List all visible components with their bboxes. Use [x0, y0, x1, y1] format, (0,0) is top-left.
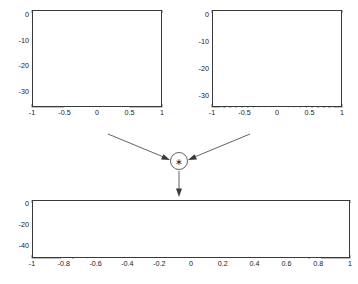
x-tick-label: -0.5 [238, 109, 250, 116]
y-tick-label: -10 [0, 37, 29, 44]
x-tick-label: -0.2 [153, 260, 165, 267]
x-tick-label: -0.4 [121, 260, 133, 267]
x-tick-label: 1 [348, 260, 352, 267]
x-tick-label: 0.2 [218, 260, 228, 267]
x-tick-label: -1 [29, 260, 35, 267]
x-tick-label: 0 [95, 109, 99, 116]
x-tick-label: 1 [160, 109, 164, 116]
chart-dirichlet-kernel: -1-0.500.510-10-20-30 [180, 0, 358, 128]
y-tick-label: -30 [0, 88, 29, 95]
arrow-from-kernel-to-operator [188, 134, 250, 160]
x-tick-label: 0.5 [305, 109, 315, 116]
y-tick-label: 0 [0, 11, 29, 18]
figure-canvas: -1-0.500.510-10-20-30 -1-0.500.510-10-20… [0, 0, 358, 284]
x-tick-label: -0.5 [58, 109, 70, 116]
x-tick-label: -1 [209, 109, 215, 116]
y-tick-label: -20 [0, 63, 29, 70]
chart-windowed-filter-response: -1-0.8-0.6-0.4-0.200.20.40.60.810-20-40 [0, 196, 358, 284]
x-tick-label: -1 [29, 109, 35, 116]
x-tick-label: 1 [340, 109, 344, 116]
y-tick-label: 0 [180, 12, 209, 19]
operator-connector: ∗ [0, 120, 358, 200]
y-tick-label: -20 [0, 221, 29, 228]
plot-frame-rect [32, 10, 162, 107]
arrow-from-rect-to-operator [108, 134, 170, 160]
x-tick-label: -0.8 [58, 260, 70, 267]
chart-rect-window: -1-0.500.510-10-20-30 [0, 0, 178, 128]
arrow-from-operator-to-result [176, 171, 182, 197]
x-tick-label: -0.6 [89, 260, 101, 267]
plot-frame-response [32, 200, 350, 258]
plot-frame-kernel [212, 10, 342, 107]
x-tick-label: 0 [189, 260, 193, 267]
y-tick-label: -10 [180, 39, 209, 46]
x-tick-label: 0 [275, 109, 279, 116]
y-tick-label: -40 [0, 242, 29, 249]
x-tick-label: 0.8 [313, 260, 323, 267]
y-tick-label: -30 [180, 93, 209, 100]
x-tick-label: 0.6 [281, 260, 291, 267]
x-tick-label: 0.4 [250, 260, 260, 267]
asterisk-icon: ∗ [175, 157, 183, 167]
x-tick-label: 0.5 [125, 109, 135, 116]
y-tick-label: -20 [180, 66, 209, 73]
y-tick-label: 0 [0, 201, 29, 208]
